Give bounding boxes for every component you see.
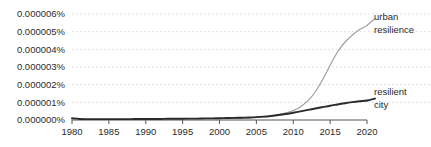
series-line-urban-resilience[interactable]: [72, 25, 367, 119]
legend-label-resilient-city[interactable]: city: [374, 99, 389, 110]
x-axis-tick-label: 1980: [61, 126, 82, 137]
x-axis-tick-label: 1995: [172, 126, 193, 137]
x-axis-tick-label: 2020: [356, 126, 377, 137]
legend-label-urban-resilience[interactable]: urban: [374, 11, 398, 22]
y-axis-tick-label: 0.000004%: [17, 44, 66, 55]
series-line-resilient-city[interactable]: [72, 101, 367, 120]
x-axis-tick-label: 2005: [246, 126, 267, 137]
y-axis-tick-labels: 0.000006%0.000005%0.000004%0.000003%0.00…: [17, 8, 66, 125]
y-axis-tick-label: 0.000003%: [17, 61, 66, 72]
legend-label-resilient-city[interactable]: resilient: [374, 86, 407, 97]
x-axis-tick-label: 2015: [320, 126, 341, 137]
y-axis-tick-label: 0.000002%: [17, 79, 66, 90]
legend-label-urban-resilience[interactable]: resilience: [374, 24, 414, 35]
x-axis-tick-label: 1990: [135, 126, 156, 137]
chart-legend: urbanresilienceresilientcity: [374, 11, 414, 110]
data-series: [72, 18, 375, 119]
ngram-chart: 0.000006%0.000005%0.000004%0.000003%0.00…: [0, 0, 431, 147]
x-axis-tick-label: 2010: [283, 126, 304, 137]
y-axis-tick-label: 0.000001%: [17, 97, 66, 108]
x-axis-ticks: [72, 120, 367, 124]
x-axis-tick-label: 2000: [209, 126, 230, 137]
y-axis-tick-label: 0.000000%: [17, 114, 66, 125]
y-axis-tick-label: 0.000005%: [17, 26, 66, 37]
x-axis-tick-labels: 198019851990199520002005201020152020: [61, 126, 377, 137]
chart-canvas: 0.000006%0.000005%0.000004%0.000003%0.00…: [0, 0, 431, 147]
x-axis-tick-label: 1985: [98, 126, 119, 137]
y-axis-tick-label: 0.000006%: [17, 8, 66, 19]
